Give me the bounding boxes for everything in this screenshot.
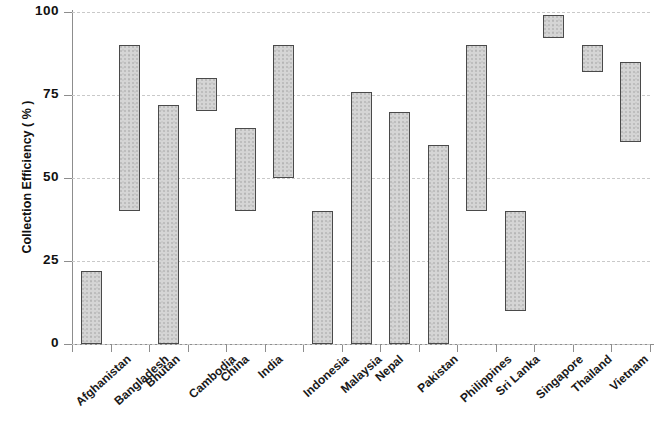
bar-bhutan (158, 105, 179, 344)
bar-pakistan (428, 145, 449, 344)
bar-cambodia (196, 78, 217, 111)
x-tick-mark-12 (534, 345, 535, 352)
x-tick-mark-1 (111, 345, 112, 352)
plot-area (72, 12, 650, 344)
bar-nepal (389, 112, 410, 344)
bar-philippines (466, 45, 487, 211)
bar-india (273, 45, 294, 178)
x-tick-mark-10 (457, 345, 458, 352)
x-tick-mark-3 (188, 345, 189, 352)
bar-malaysia (351, 92, 372, 344)
x-tick-mark-6 (303, 345, 304, 352)
x-label-india: India (255, 352, 285, 381)
x-tick-mark-0 (72, 345, 73, 352)
y-tick-label-100: 100 (0, 3, 59, 18)
y-tick-label-50: 50 (0, 169, 59, 184)
x-tick-mark-9 (419, 345, 420, 352)
bar-vietnam (620, 62, 641, 142)
bar-singapore (543, 15, 564, 38)
bar-indonesia (312, 211, 333, 344)
x-tick-mark-4 (226, 345, 227, 352)
y-tick-label-0: 0 (0, 335, 59, 350)
bar-sri-lanka (505, 211, 526, 311)
x-label-pakistan: Pakistan (415, 352, 461, 395)
bar-afghanistan (81, 271, 102, 344)
y-tick-label-25: 25 (0, 252, 59, 267)
collection-efficiency-chart: Collection Efficiency ( % ) 0255075100 A… (0, 0, 657, 440)
x-tick-mark-5 (265, 345, 266, 352)
y-tick-label-75: 75 (0, 86, 59, 101)
bar-thailand (582, 45, 603, 72)
x-tick-mark-8 (380, 345, 381, 352)
bar-china (235, 128, 256, 211)
bar-bangladesh (119, 45, 140, 211)
x-label-vietnam: Vietnam (607, 352, 651, 393)
x-tick-mark-13 (573, 345, 574, 352)
x-tick-mark-15 (650, 345, 651, 352)
x-tick-mark-14 (611, 345, 612, 352)
x-tick-mark-11 (496, 345, 497, 352)
x-tick-mark-7 (342, 345, 343, 352)
gridline-y-100 (72, 12, 650, 13)
x-tick-mark-2 (149, 345, 150, 352)
gridline-y-0 (72, 344, 650, 345)
